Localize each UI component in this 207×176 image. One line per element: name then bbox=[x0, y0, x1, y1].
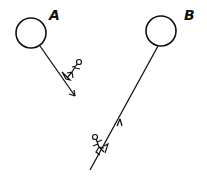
rope-a bbox=[40, 46, 75, 96]
balloon-a: A bbox=[16, 7, 60, 48]
balloon-b-circle bbox=[146, 16, 176, 46]
balloon-a-label: A bbox=[48, 7, 60, 23]
balloon-diagram: A B bbox=[0, 0, 207, 176]
rope-b bbox=[90, 46, 158, 170]
balloon-a-circle bbox=[16, 18, 46, 48]
climber-a-figure bbox=[62, 60, 82, 81]
balloon-b-label: B bbox=[184, 7, 195, 23]
balloon-b: B bbox=[146, 7, 195, 46]
